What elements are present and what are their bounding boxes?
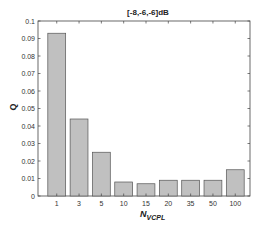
plot-area: 00.010.020.030.040.050.060.070.080.090.1…: [21, 18, 250, 208]
y-axis-label: Q: [8, 103, 18, 110]
x-tick-label: 5: [99, 200, 103, 207]
y-tick-label: 0.1: [25, 18, 35, 25]
y-tick-label: 0.05: [21, 105, 35, 112]
bar: [226, 170, 244, 196]
y-tick-label: 0.02: [21, 158, 35, 165]
y-tick-label: 0.08: [21, 53, 35, 60]
x-tick-label: 20: [164, 200, 172, 207]
y-tick-label: 0: [31, 193, 35, 200]
chart-title: [-8,-6,-6]dB: [127, 8, 169, 17]
x-tick-label: 10: [120, 200, 128, 207]
y-tick-label: 0.04: [21, 123, 35, 130]
x-axis-label: NVCPL: [140, 209, 165, 221]
x-tick-label: 15: [142, 200, 150, 207]
y-tick-label: 0.07: [21, 70, 35, 77]
x-tick-label: 3: [77, 200, 81, 207]
bar: [48, 33, 66, 196]
y-tick-label: 0.03: [21, 140, 35, 147]
y-tick-label: 0.09: [21, 35, 35, 42]
bar: [70, 119, 88, 196]
x-tick-label: 50: [209, 200, 217, 207]
bar-chart: [-8,-6,-6]dB 00.010.020.030.040.050.060.…: [0, 0, 262, 229]
x-tick-label: 1: [55, 200, 59, 207]
y-tick-label: 0.01: [21, 175, 35, 182]
bar: [92, 152, 110, 196]
y-tick-label: 0.06: [21, 88, 35, 95]
x-tick-label: 100: [229, 200, 241, 207]
x-tick-label: 35: [187, 200, 195, 207]
